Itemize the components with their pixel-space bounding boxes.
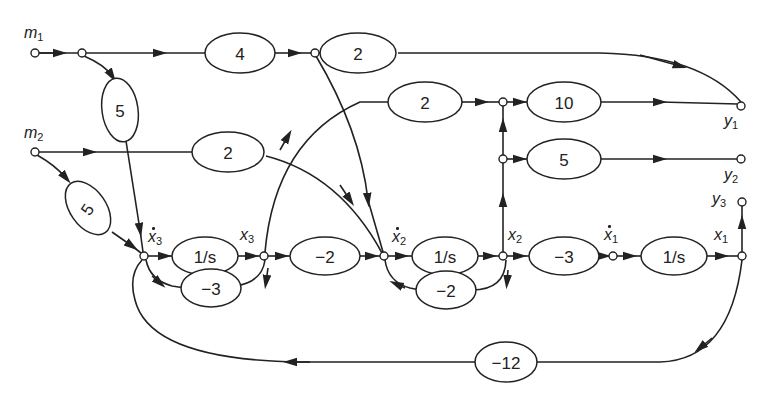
gain-5-m1-label: 5 bbox=[115, 102, 124, 122]
gain-2-top-label: 2 bbox=[353, 45, 362, 65]
node-m1 bbox=[31, 49, 39, 57]
node-y1-sum bbox=[499, 98, 507, 106]
feedback-minus2-label: −2 bbox=[436, 282, 455, 302]
label-x1dot: x1 bbox=[604, 226, 618, 245]
node-x3dot bbox=[140, 252, 148, 260]
node-x2-split bbox=[499, 155, 507, 163]
node-m1-split bbox=[78, 49, 86, 57]
label-x2dot: x2 bbox=[392, 228, 406, 247]
integrator-3-label: 1/s bbox=[194, 248, 217, 268]
node-y2 bbox=[737, 155, 745, 163]
node-x3 bbox=[260, 252, 268, 260]
gain-2-x3-label: 2 bbox=[420, 94, 429, 114]
graph-edges bbox=[0, 0, 777, 401]
gain-5-x2-label: 5 bbox=[559, 151, 568, 171]
node-y3 bbox=[738, 198, 746, 206]
label-x3dot: x3 bbox=[148, 228, 162, 247]
label-x2: x2 bbox=[508, 226, 522, 245]
feedback-minus3-label: −3 bbox=[201, 280, 220, 300]
node-x1 bbox=[738, 252, 746, 260]
label-y2: y2 bbox=[724, 166, 738, 185]
gain-minus3-label: −3 bbox=[554, 248, 573, 268]
node-x2dot bbox=[380, 252, 388, 260]
node-y1 bbox=[737, 102, 745, 110]
node-m2 bbox=[31, 148, 39, 156]
label-m1: m1 bbox=[24, 24, 43, 43]
feedback-minus12-label: −12 bbox=[492, 354, 521, 374]
gain-2-m2-label: 2 bbox=[223, 144, 232, 164]
gain-minus2-label: −2 bbox=[315, 248, 334, 268]
gain-10-label: 10 bbox=[555, 94, 574, 114]
signal-flow-graph: 4 2 5 2 5 2 10 5 1/s −2 1/s −3 1/s −3 −2… bbox=[0, 0, 777, 401]
label-x1: x1 bbox=[714, 226, 728, 245]
label-y3: y3 bbox=[712, 190, 726, 209]
label-y1: y1 bbox=[724, 112, 738, 131]
node-top-split bbox=[311, 49, 319, 57]
integrator-2-label: 1/s bbox=[434, 248, 457, 268]
label-x3: x3 bbox=[240, 226, 254, 245]
integrator-1-label: 1/s bbox=[663, 248, 686, 268]
node-x2 bbox=[499, 252, 507, 260]
label-m2: m2 bbox=[24, 124, 43, 143]
node-x1dot bbox=[609, 252, 617, 260]
gain-4-label: 4 bbox=[235, 45, 244, 65]
